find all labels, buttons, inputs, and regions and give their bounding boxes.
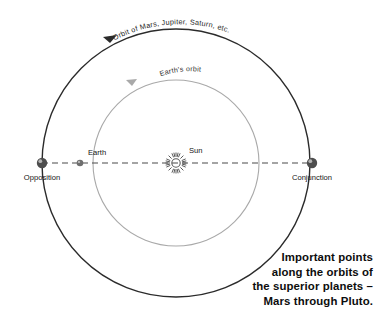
earth-label: Earth bbox=[88, 148, 106, 157]
caption-line-1: Important points bbox=[183, 250, 373, 264]
planet-marker-earth bbox=[77, 160, 84, 167]
orbit-diagram: Orbit of Mars, Jupiter, Saturn, etc. Ear… bbox=[0, 0, 381, 320]
conjunction-label: Conjunction bbox=[292, 173, 332, 182]
inner-orbit-label: Earth's orbit bbox=[159, 65, 202, 78]
planet-marker-conjunction bbox=[307, 158, 317, 168]
inner-orbit-direction-arrow-icon bbox=[126, 79, 137, 86]
opposition-label: Opposition bbox=[24, 173, 60, 182]
caption-line-4: Mars through Pluto. bbox=[183, 294, 373, 308]
sun-label: Sun bbox=[189, 146, 203, 155]
planet-marker-opposition bbox=[37, 158, 47, 168]
inner-orbit-label-text: Earth's orbit bbox=[159, 65, 202, 78]
caption-line-3: the superior planets – bbox=[183, 279, 373, 293]
caption-line-2: along the orbits of bbox=[183, 265, 373, 279]
diagram-caption: Important points along the orbits of the… bbox=[183, 250, 373, 308]
